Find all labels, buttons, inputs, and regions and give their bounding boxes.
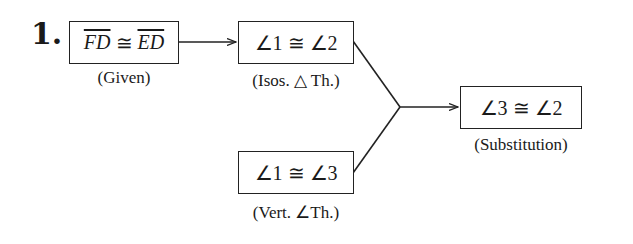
node-given: FD ≅ ED <box>69 21 179 64</box>
node-vert: ∠1 ≅ ∠3 <box>238 151 354 194</box>
node-subst: ∠3 ≅ ∠2 <box>460 86 582 129</box>
segment-ed: ED <box>138 31 165 54</box>
segment-fd: FD <box>84 31 111 54</box>
line-vert-to-junction <box>353 107 400 173</box>
reason-given: (Given) <box>69 68 179 88</box>
congruent-symbol: ≅ <box>111 31 138 55</box>
reason-subst: (Substitution) <box>451 135 591 155</box>
reason-isos: (Isos. △ Th.) <box>226 70 366 91</box>
node-isos: ∠1 ≅ ∠2 <box>238 21 354 64</box>
reason-vert: (Vert. ∠Th.) <box>226 202 366 223</box>
